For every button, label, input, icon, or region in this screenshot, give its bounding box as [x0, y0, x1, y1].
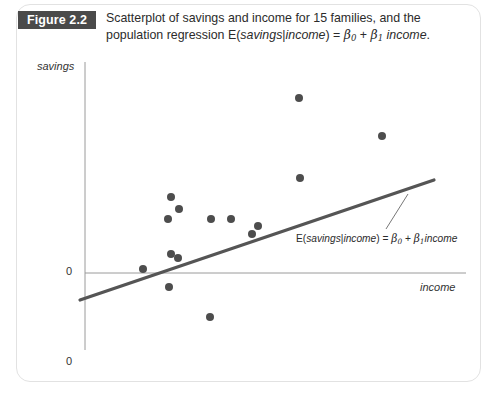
annotation-prefix: E(: [296, 233, 306, 244]
figure-page: Figure 2.2 Scatterplot of savings and in…: [0, 0, 497, 396]
y-axis-label: savings: [37, 60, 74, 72]
data-point: [206, 313, 214, 321]
x-axis-zero-tick-label: 0: [66, 355, 72, 367]
annotation-income-term: income: [343, 233, 376, 244]
data-point: [295, 94, 303, 102]
data-point: [167, 193, 175, 201]
scatter-plot: savings income 0 0 E(savings|income) = β…: [0, 0, 497, 396]
data-point: [378, 132, 386, 140]
data-point: [174, 254, 182, 262]
data-point: [139, 265, 147, 273]
annotation-leader-line: [386, 194, 408, 229]
regression-equation-annotation: E(savings|income) = β0 + β1income: [296, 232, 457, 246]
annotation-equals: ) =: [376, 233, 391, 244]
data-point: [207, 215, 215, 223]
data-point: [167, 250, 175, 258]
annotation-income-term-2: income: [425, 233, 458, 244]
data-point: [296, 174, 304, 182]
y-axis-zero-tick-label: 0: [66, 265, 72, 277]
annotation-savings-term: savings: [306, 233, 341, 244]
data-point: [164, 215, 172, 223]
data-point: [254, 222, 262, 230]
scatter-plot-canvas: [0, 0, 497, 396]
data-point: [165, 283, 173, 291]
data-point: [227, 215, 235, 223]
annotation-plus: +: [402, 233, 414, 244]
data-point: [248, 230, 256, 238]
data-point: [175, 205, 183, 213]
x-axis-label: income: [420, 281, 455, 293]
